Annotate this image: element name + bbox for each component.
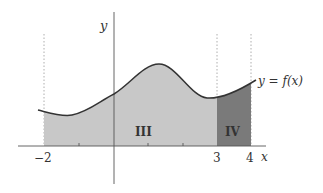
tick-label-3: 3: [213, 151, 221, 165]
tick-label-4: 4: [246, 151, 254, 165]
y-axis-label: y: [99, 18, 108, 33]
tick-label-neg2: −2: [34, 151, 52, 165]
area-under-curve-diagram: y x y = f(x) −2 3 4 III IV: [0, 0, 323, 193]
region-iv-label: IV: [225, 125, 241, 139]
x-axis-label: x: [261, 150, 268, 164]
region-iii-label: III: [135, 125, 152, 139]
curve-label: y = f(x): [257, 74, 303, 88]
